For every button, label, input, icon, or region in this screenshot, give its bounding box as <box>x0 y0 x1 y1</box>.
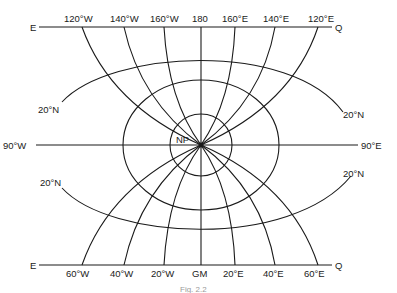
meridian-label-gm: GM <box>192 268 207 279</box>
top-meridian-labels: 120°W 140°W 160°W 180 160°E 140°E 120°E <box>64 13 334 24</box>
axis-label-90e: 90°E <box>361 140 382 151</box>
top-right-q-label: Q <box>335 22 342 33</box>
bottom-left-e-label: E <box>30 260 36 271</box>
meridian-label-40w: 40°W <box>110 268 133 279</box>
meridian-label-20e: 20°E <box>223 268 244 279</box>
north-pole-point <box>199 143 204 148</box>
meridian-label-180: 180 <box>192 13 208 24</box>
meridian-label-160w: 160°W <box>150 13 179 24</box>
north-pole-label: NP <box>176 134 189 145</box>
parallel-20n-lower <box>62 176 351 229</box>
meridian-label-120e: 120°E <box>308 13 334 24</box>
meridian-label-120w: 120°W <box>64 13 93 24</box>
meridian-label-60w: 60°W <box>66 268 89 279</box>
axis-label-90w: 90°W <box>3 140 26 151</box>
bottom-right-q-label: Q <box>335 260 342 271</box>
parallel-label-lower-right: 20°N <box>343 168 364 179</box>
oblique-map-projection-diagram: E Q E Q 120°W 140°W 160°W 180 160°E 140°… <box>0 0 397 293</box>
meridian-label-140e: 140°E <box>263 13 289 24</box>
meridian-label-20w: 20°W <box>151 268 174 279</box>
meridian-label-40e: 40°E <box>263 268 284 279</box>
parallel-label-upper-right: 20°N <box>343 109 364 120</box>
meridian-label-140w: 140°W <box>110 13 139 24</box>
bottom-meridian-labels: 60°W 40°W 20°W GM 20°E 40°E 60°E <box>66 268 325 279</box>
meridian-label-60e: 60°E <box>304 268 325 279</box>
figure-caption: Fig. 2.2 <box>180 285 207 293</box>
parallel-20n-upper <box>62 61 343 113</box>
parallel-label-lower-left: 20°N <box>40 177 61 188</box>
top-left-e-label: E <box>30 22 36 33</box>
parallel-label-upper-left: 20°N <box>38 104 59 115</box>
meridian-label-160e: 160°E <box>222 13 248 24</box>
